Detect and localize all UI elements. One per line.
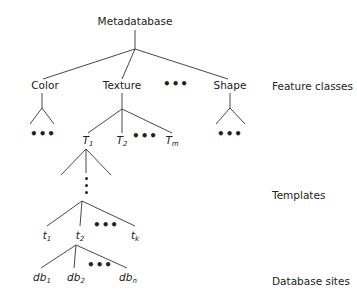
feature-class-texture: Texture <box>103 80 141 91</box>
leaf-template-tk: tk <box>131 230 139 243</box>
feature-class-ellipsis: ••• <box>163 78 189 90</box>
site-subscript: 2 <box>80 277 84 285</box>
template-subscript: k <box>135 235 139 243</box>
template-subscript: 2 <box>123 140 127 148</box>
color-children-ellipsis: ••• <box>30 128 56 140</box>
site-subscript: 1 <box>46 277 50 285</box>
site-base: db <box>67 271 80 283</box>
database-site-dbn: dbn <box>119 272 137 285</box>
leaf-template-t2: t2 <box>76 230 85 243</box>
database-site-db1: db1 <box>33 272 51 285</box>
site-base: db <box>119 271 132 283</box>
texture-template-t1: T1 <box>83 135 94 148</box>
vertical-ellipsis <box>85 177 88 198</box>
database-site-db2: db2 <box>67 272 85 285</box>
database-sites-ellipsis: ••• <box>87 259 113 271</box>
leaf-templates-ellipsis: ••• <box>93 219 119 231</box>
leaf-template-t1: t1 <box>43 230 52 243</box>
site-base: db <box>33 271 46 283</box>
tree-edges <box>0 0 357 305</box>
templates-side-label: Templates <box>272 190 325 201</box>
template-subscript: 2 <box>80 235 84 243</box>
texture-template-t2: T2 <box>117 135 128 148</box>
template-subscript: 1 <box>89 140 93 148</box>
feature-class-color: Color <box>31 80 58 91</box>
template-subscript: 1 <box>47 235 51 243</box>
feature-classes-side-label: Feature classes <box>272 81 353 92</box>
feature-class-shape: Shape <box>214 80 247 91</box>
template-subscript: m <box>172 140 179 148</box>
texture-children-ellipsis: ••• <box>132 130 158 142</box>
root-node-metadatabase: Metadatabase <box>98 16 173 27</box>
texture-template-tm: Tm <box>165 135 178 148</box>
site-subscript: n <box>132 277 136 285</box>
database-sites-side-label: Database sites <box>272 276 350 287</box>
shape-children-ellipsis: ••• <box>217 128 243 140</box>
